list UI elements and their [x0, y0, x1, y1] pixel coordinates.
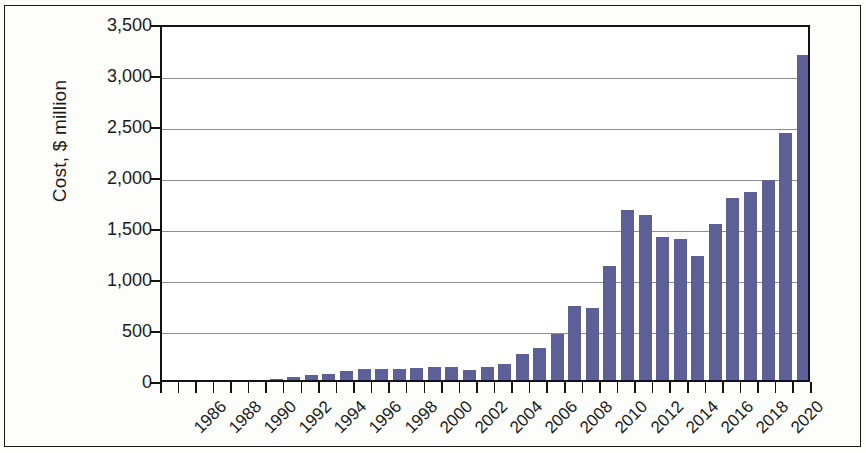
bar [481, 367, 494, 380]
bar [551, 334, 564, 380]
y-axis-tick-label: 2,500 [86, 117, 152, 138]
x-axis-tick-label: 2014 [682, 397, 723, 438]
x-axis-tick-label: 1988 [225, 397, 266, 438]
x-axis-tick [459, 382, 461, 393]
y-axis-tick-label: 1,000 [86, 270, 152, 291]
x-axis-tick [705, 382, 707, 393]
x-axis-tick [494, 382, 496, 393]
x-axis-tick [301, 382, 303, 393]
x-axis-tick [792, 382, 794, 393]
x-axis-tick [740, 382, 742, 393]
x-axis-tick [318, 382, 320, 393]
x-axis-tick [371, 382, 373, 393]
y-axis-tick-label: 500 [86, 321, 152, 342]
x-axis-tick-label: 2018 [752, 397, 793, 438]
x-axis-tick [160, 382, 162, 393]
x-axis-tick-label: 1998 [401, 397, 442, 438]
bar [621, 210, 634, 380]
bar [393, 369, 406, 380]
x-axis-tick [529, 382, 531, 393]
x-axis-tick-label: 1996 [366, 397, 407, 438]
bar [445, 367, 458, 380]
x-axis-tick-label: 2000 [436, 397, 477, 438]
bar [375, 369, 388, 380]
bar [498, 364, 511, 380]
y-axis-title: Cost, $ million [49, 11, 71, 271]
bar [797, 55, 810, 380]
y-axis-tick-labels: 3,5003,0002,5002,0001,5001,0005000 [86, 25, 152, 382]
bar [726, 198, 739, 380]
x-axis-tick [669, 382, 671, 393]
x-axis-tick [265, 382, 267, 393]
y-axis-tick [150, 229, 160, 231]
x-axis-tick-labels: 1986198819901992199419961998200020022004… [160, 393, 810, 451]
x-axis-tick [195, 382, 197, 393]
x-axis-tick-label: 2002 [471, 397, 512, 438]
x-axis-tick-label: 2004 [506, 397, 547, 438]
y-axis-tick-label: 1,500 [86, 219, 152, 240]
y-axis-tick-label: 2,000 [86, 168, 152, 189]
y-axis-tick [150, 25, 160, 27]
x-axis-tick-label: 2012 [647, 397, 688, 438]
x-axis-tick [476, 382, 478, 393]
x-axis-tick [722, 382, 724, 393]
x-axis-tick [406, 382, 408, 393]
x-axis-tick [230, 382, 232, 393]
y-axis-tick [150, 331, 160, 333]
y-axis-tick [150, 76, 160, 78]
bar [516, 354, 529, 380]
x-axis-tick-label: 2006 [541, 397, 582, 438]
bar [744, 192, 757, 380]
bar [322, 374, 335, 380]
bar [287, 377, 300, 380]
bar [691, 256, 704, 380]
plot-area [160, 25, 810, 382]
x-axis-tick [213, 382, 215, 393]
x-axis-tick [441, 382, 443, 393]
x-axis-tick [564, 382, 566, 393]
bar [656, 237, 669, 380]
x-axis-tick [652, 382, 654, 393]
x-axis-tick [388, 382, 390, 393]
bar-series [162, 27, 808, 380]
chart-figure: Cost, $ million 3,5003,0002,5002,0001,50… [0, 0, 866, 453]
bar [709, 224, 722, 380]
x-axis-tick-label: 1990 [260, 397, 301, 438]
y-axis-tick [150, 382, 160, 384]
x-axis-tick [687, 382, 689, 393]
x-axis-tick-label: 1992 [295, 397, 336, 438]
x-axis-tick [546, 382, 548, 393]
x-axis-tick [810, 382, 812, 393]
bar [270, 379, 283, 380]
x-axis-tick-label: 1994 [330, 397, 371, 438]
x-axis-tick [599, 382, 601, 393]
x-axis-tick [617, 382, 619, 393]
bar [762, 180, 775, 380]
y-axis-tick [150, 280, 160, 282]
bar [603, 266, 616, 380]
x-axis-tick-label: 2016 [717, 397, 758, 438]
x-axis-tick-label: 2010 [611, 397, 652, 438]
x-axis-tick-label: 1986 [190, 397, 231, 438]
bar [410, 368, 423, 380]
bar [568, 306, 581, 380]
bar [463, 370, 476, 380]
bar [586, 308, 599, 380]
bar [779, 133, 792, 380]
x-axis-tick [634, 382, 636, 393]
x-axis-tick [511, 382, 513, 393]
x-axis-tick [582, 382, 584, 393]
bar [533, 348, 546, 380]
x-axis-tick-label: 2008 [576, 397, 617, 438]
x-axis-tick [178, 382, 180, 393]
x-axis-ticks [160, 382, 810, 393]
bar [674, 239, 687, 380]
x-axis-tick [757, 382, 759, 393]
y-axis-tick [150, 127, 160, 129]
bar [305, 375, 318, 380]
y-axis-tick-label: 3,500 [86, 15, 152, 36]
x-axis-tick [775, 382, 777, 393]
y-axis-tick-label: 0 [86, 372, 152, 393]
bar [340, 371, 353, 380]
y-axis-tick [150, 178, 160, 180]
